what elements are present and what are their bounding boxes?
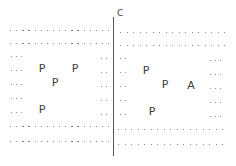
dot [21,98,22,99]
dot [71,30,72,31]
dot [16,98,17,99]
dot [196,144,197,145]
dot [84,141,85,142]
dot [90,141,91,142]
dot [77,126,78,127]
dot [196,129,197,130]
label-p: P [143,65,150,76]
dot [11,98,12,99]
dot [101,72,102,73]
dot [41,30,42,31]
dot [120,86,121,87]
dot [151,129,152,130]
dot [16,112,17,113]
dot [198,32,199,33]
dot [220,88,221,89]
dot [166,32,167,33]
dot [71,126,72,127]
dot [211,45,212,46]
dot [222,129,223,130]
dot [53,141,54,142]
dot [215,60,216,61]
dot [125,100,126,101]
dot [10,141,11,142]
dot [153,32,154,33]
dot [210,88,211,89]
dot [183,129,184,130]
dot [164,129,165,130]
diagram-canvas: C PPPP PPAP [0,0,236,166]
dot [224,32,225,33]
dot [120,72,121,73]
dot [172,32,173,33]
dot [106,86,107,87]
dot [101,86,102,87]
dot [71,141,72,142]
dot [216,129,217,130]
dot [77,30,78,31]
dot [220,116,221,117]
dot [28,141,29,142]
dot [140,45,141,46]
dot [120,100,121,101]
dot [77,43,78,44]
dot [65,141,66,142]
dot [101,100,102,101]
dot [209,144,210,145]
dot [21,84,22,85]
dot [120,58,121,59]
dot [166,45,167,46]
dot [198,45,199,46]
dot [65,30,66,31]
dot [35,43,36,44]
dot [210,116,211,117]
dot [179,45,180,46]
dot [53,30,54,31]
label-p: P [52,77,59,88]
dot [16,70,17,71]
dot [16,43,17,44]
dot [190,144,191,145]
dot [16,141,17,142]
dot [96,141,97,142]
dot [192,45,193,46]
dot [16,56,17,57]
dot [53,126,54,127]
dot [59,141,60,142]
dot [10,30,11,31]
dot [59,43,60,44]
dot [106,72,107,73]
dot [164,144,165,145]
dot [108,141,109,142]
dot [41,126,42,127]
dot [47,43,48,44]
dot [216,144,217,145]
dot [102,141,103,142]
dot [185,45,186,46]
dot [84,43,85,44]
dot [120,114,121,115]
dot [21,70,22,71]
label-p: P [39,63,46,74]
dot [11,70,12,71]
dot [224,45,225,46]
dot [218,45,219,46]
dot [21,56,22,57]
dot [11,112,12,113]
dot [146,32,147,33]
dot [170,129,171,130]
dot [35,126,36,127]
dot [47,30,48,31]
dot [47,141,48,142]
dot [203,144,204,145]
dot [218,32,219,33]
dot [183,144,184,145]
dot [108,30,109,31]
dot [153,45,154,46]
dot [215,74,216,75]
dot [108,126,109,127]
dot [205,32,206,33]
dot [22,141,23,142]
label-p: P [149,106,156,117]
dot [179,32,180,33]
